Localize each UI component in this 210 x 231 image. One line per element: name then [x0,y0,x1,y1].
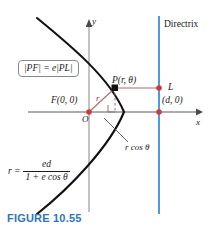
y-axis-label: y [92,17,96,26]
rcos-leader-line [104,118,128,142]
polar-equation: r = ed 1 + e cos θ [8,160,70,183]
radial-segment-fp [89,88,115,112]
projection-label: r cos θ [125,143,149,152]
x-axis-label: x [196,118,200,127]
directrix-label: Directrix [164,20,198,30]
polar-equation-numerator: ed [38,160,55,171]
point-l-label: L [168,83,173,93]
origin-label: O [82,115,89,124]
polar-equation-lhs: r = [8,166,20,176]
right-angle-marker [108,105,115,112]
conic-diagram-svg [0,0,210,231]
directrix-point-dot [156,109,162,115]
boxed-equation: |PF| = e|PL| [18,60,79,77]
focus-label: F(0, 0) [51,96,77,106]
point-p-label: P(r, θ) [112,76,136,86]
directrix-point-label: (d, 0) [162,96,183,106]
polar-equation-fraction: ed 1 + e cos θ [23,160,69,183]
polar-equation-denominator: 1 + e cos θ [23,171,69,183]
figure-caption: FIGURE 10.55 [7,212,82,224]
radius-label: r [96,94,100,103]
figure-container: Directrix y x O F(0, 0) (d, 0) P(r, θ) L… [0,0,210,231]
conic-curve [37,18,124,214]
point-l-dot [156,85,162,91]
